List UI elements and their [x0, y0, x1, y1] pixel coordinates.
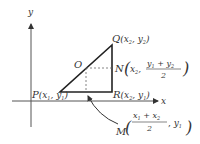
svg-text:2: 2	[160, 71, 166, 80]
svg-text:P(x1, y1): P(x1, y1)	[31, 89, 69, 101]
label-r: R(x2, y1)	[112, 89, 150, 101]
label-q: Q(x2, y2)	[112, 33, 150, 45]
curved-arrow-m	[88, 96, 118, 124]
y-axis-label: y	[27, 7, 34, 17]
svg-text:y1 + y2: y1 + y2	[146, 59, 174, 69]
svg-text:2: 2	[146, 124, 152, 133]
svg-text:): )	[185, 118, 192, 137]
label-o: O	[74, 59, 82, 70]
label-m: M ( x1 + x2 2 , y1 )	[115, 111, 192, 137]
label-n: N ( x2, y1 + y2 2 )	[114, 59, 189, 80]
svg-text:x2,: x2,	[130, 64, 141, 75]
svg-text:R(x2, y1): R(x2, y1)	[112, 89, 150, 101]
x-axis-label: x	[161, 96, 166, 106]
svg-text:, y1: , y1	[168, 118, 182, 129]
svg-text:x1 + x2: x1 + x2	[133, 111, 160, 121]
label-p: P(x1, y1)	[31, 89, 69, 101]
svg-text:): )	[182, 59, 189, 78]
svg-text:Q(x2, y2): Q(x2, y2)	[112, 33, 150, 45]
midpoint-diagram: y x O Q(x2, y2) P(x1, y1) R(x2, y1) N ( …	[0, 0, 200, 144]
svg-text:(: (	[125, 118, 132, 137]
